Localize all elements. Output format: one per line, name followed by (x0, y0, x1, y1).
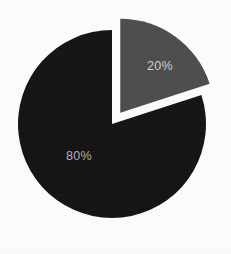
pie-slice-20-label: 20% (147, 59, 173, 73)
pie-chart-figure: 80% 20% (0, 0, 231, 254)
pie-chart-svg: 80% 20% (0, 0, 231, 254)
pie-slice-80-label: 80% (66, 149, 92, 163)
